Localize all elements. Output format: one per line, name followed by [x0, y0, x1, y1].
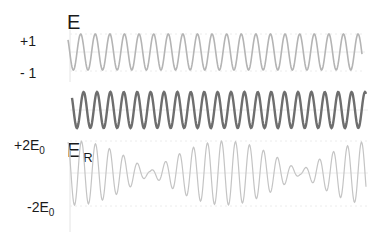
waveform-plot — [0, 0, 383, 248]
